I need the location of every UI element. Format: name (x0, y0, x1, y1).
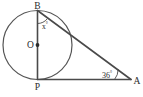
angle-36-value: 36 (102, 71, 110, 80)
angle-arc-a (115, 69, 119, 79)
angle-36-degree-symbol: ° (110, 70, 112, 76)
vertex-label-o: O (27, 40, 34, 50)
vertex-label-b: B (34, 1, 40, 11)
angle-label-x: x° (42, 21, 48, 31)
segment-ba (38, 11, 132, 80)
vertex-label-a: A (134, 76, 141, 86)
geometry-diagram: B O P A x° 36° (0, 0, 143, 97)
angle-label-36: 36° (102, 70, 112, 80)
angle-x-degree-symbol: ° (46, 21, 48, 27)
geometry-figure-container: B O P A x° 36° (0, 0, 143, 97)
vertex-label-p: P (35, 82, 40, 92)
center-point-dot (36, 43, 40, 47)
